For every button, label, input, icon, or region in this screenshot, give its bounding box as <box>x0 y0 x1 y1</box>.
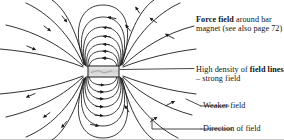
callout-weaker-field: Weaker field <box>203 101 284 111</box>
callout-direction-of-field: Direction of field <box>203 124 284 134</box>
leader-line-weaker-field-hook <box>186 99 201 106</box>
bar-magnet <box>88 66 119 77</box>
callout-field-lines-rest: – strong field <box>196 74 240 83</box>
callout-field-lines: High density of field lines – strong fie… <box>196 55 284 84</box>
field-lines-upper-loops <box>78 5 127 68</box>
field-lines-lower-loops <box>78 75 127 138</box>
callout-field-lines-lead: High density of <box>196 65 250 74</box>
callout-field-lines-bold: field lines <box>250 65 284 74</box>
figure-panel: Force field around bar magnet (see also … <box>0 0 284 140</box>
callout-force-field-bold: Force field <box>196 15 234 24</box>
field-lines-upper-left <box>0 0 84 67</box>
leader-line-field-lines <box>120 69 194 70</box>
field-lines-lower-left <box>0 76 84 140</box>
field-lines-lower-right <box>122 76 196 140</box>
callout-force-field: Force field around bar magnet (see also … <box>196 5 284 34</box>
field-lines-upper-right <box>122 0 196 67</box>
leader-line-direction-hook <box>152 118 201 129</box>
